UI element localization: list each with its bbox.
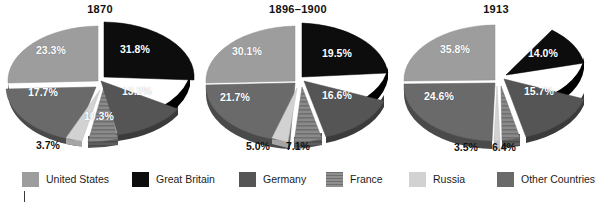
legend-label-germany: Germany: [263, 173, 306, 185]
chart-title-1870: 1870: [0, 3, 200, 15]
pie-svg-1896-1900: [198, 17, 398, 168]
legend-label-france: France: [350, 173, 383, 185]
pie-canvas-1870: 23.3% 17.7% 3.7% 10.3% 13.2% 31.8%: [0, 17, 200, 168]
pie-canvas-1913: 35.8% 24.6% 3.5% 6.4% 15.7% 14.0%: [396, 17, 596, 168]
legend-item-france[interactable]: France: [326, 170, 383, 188]
pie-chart-figure: 1870: [0, 0, 596, 204]
legend-swatch-great-britain: [132, 172, 149, 187]
chart-title-1913: 1913: [396, 3, 596, 15]
pie-canvas-1896-1900: 30.1% 21.7% 5.0% 7.1% 16.6% 19.5%: [198, 17, 398, 168]
legend-swatch-united-states: [22, 172, 39, 187]
legend-swatch-russia: [409, 172, 426, 187]
charts-row: 1870: [0, 0, 596, 168]
legend-label-great-britain: Great Britain: [156, 173, 215, 185]
legend-label-united-states: United States: [46, 173, 109, 185]
chart-legend: United States Great Britain Germany Fran…: [0, 170, 596, 204]
legend-item-germany[interactable]: Germany: [239, 170, 306, 188]
legend-item-other-countries[interactable]: Other Countries: [497, 170, 595, 188]
legend-swatch-germany: [239, 172, 256, 187]
legend-item-united-states[interactable]: United States: [22, 170, 109, 188]
pie-chart-1896-1900: 1896–1900: [198, 0, 398, 168]
pie-chart-1870: 1870: [0, 0, 200, 168]
pie-svg-1913: [396, 17, 596, 168]
chart-title-1896-1900: 1896–1900: [198, 3, 398, 15]
legend-item-russia[interactable]: Russia: [409, 170, 465, 188]
legend-label-other-countries: Other Countries: [521, 173, 595, 185]
pie-svg-1870: [0, 17, 200, 168]
pie-chart-1913: 1913: [396, 0, 596, 168]
legend-swatch-other-countries: [497, 172, 514, 187]
legend-label-russia: Russia: [433, 173, 465, 185]
legend-pointer-tick: [24, 191, 25, 202]
legend-item-great-britain[interactable]: Great Britain: [132, 170, 215, 188]
legend-swatch-france: [326, 172, 343, 187]
